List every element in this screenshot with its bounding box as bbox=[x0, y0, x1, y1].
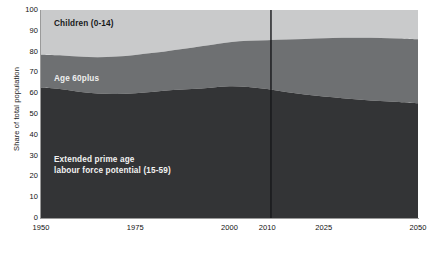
series-label-prime-age-line2: labour force potential (15-59) bbox=[54, 166, 171, 175]
series-label-age-60plus: Age 60plus bbox=[54, 74, 99, 85]
x-tick-label: 2050 bbox=[398, 223, 435, 232]
x-tick-label: 2010 bbox=[247, 223, 287, 232]
series-label-prime-age: Extended prime agelabour force potential… bbox=[54, 155, 171, 176]
age-structure-area-chart: Share of total population 01020304050607… bbox=[0, 0, 435, 258]
x-tick-label: 2000 bbox=[210, 223, 250, 232]
series-label-prime-age-line1: Extended prime age bbox=[54, 155, 135, 164]
x-tick-label: 2025 bbox=[304, 223, 344, 232]
series-label-children: Children (0-14) bbox=[54, 19, 114, 30]
x-tick-label: 1975 bbox=[115, 223, 155, 232]
x-axis-tick-labels: 195019752000201020252050 bbox=[0, 0, 435, 258]
x-tick-label: 1950 bbox=[21, 223, 61, 232]
